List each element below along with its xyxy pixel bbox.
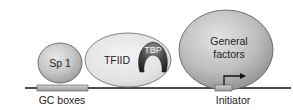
tbp-label: TBP [144,45,162,55]
sp1-label: Sp 1 [49,57,71,69]
tfiid-protein: TFIID [85,33,171,87]
tfiid-label: TFIID [104,54,131,66]
sp1-protein: Sp 1 [38,43,82,83]
promoter-diagram: General factors TFIID TBP Sp 1 GC boxes … [0,0,293,110]
gc-boxes-label: GC boxes [39,94,86,106]
gc-boxes-element: GC boxes [37,85,88,106]
initiator-label: Initiator [216,94,251,106]
general-factors-protein: General factors [179,10,273,90]
general-factors-label-line2: factors [213,48,245,60]
general-factors-label-line1: General [210,35,247,47]
